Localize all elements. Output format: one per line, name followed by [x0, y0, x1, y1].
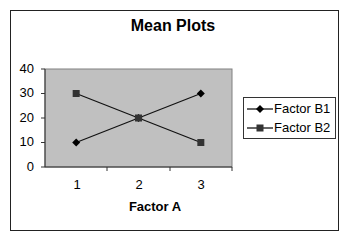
y-tick-label: 0 [8, 159, 34, 174]
y-tick-label: 10 [8, 134, 34, 149]
y-tick-label: 40 [8, 61, 34, 76]
legend-item-factor-b1: Factor B1 [244, 99, 335, 119]
y-tick-label: 30 [8, 85, 34, 100]
x-axis-label: Factor A [110, 199, 200, 214]
x-tick-label: 2 [129, 177, 149, 192]
square-marker [135, 115, 142, 122]
square-marker-icon [247, 122, 275, 134]
y-tick-label: 20 [8, 110, 34, 125]
square-marker [73, 90, 80, 97]
legend-label: Factor B2 [274, 120, 330, 135]
x-tick-label: 1 [67, 177, 87, 192]
x-tick-label: 3 [191, 177, 211, 192]
legend-item-factor-b2: Factor B2 [244, 118, 335, 138]
y-axis-ticks [41, 69, 45, 167]
legend: Factor B1 Factor B2 [243, 97, 336, 139]
diamond-marker-icon [247, 103, 275, 115]
legend-label: Factor B1 [274, 101, 330, 116]
x-axis-ticks [107, 167, 232, 171]
square-marker [197, 139, 204, 146]
